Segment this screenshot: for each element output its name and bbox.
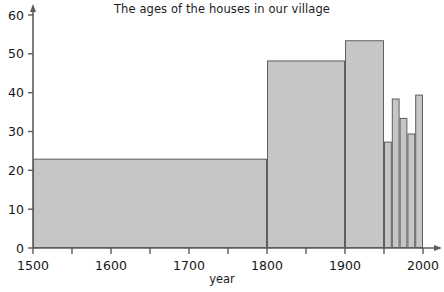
x-tick-label: 1600 [95,258,127,273]
y-tick-label: 0 [16,241,24,256]
y-tick-label: 30 [8,124,24,139]
histogram-bar [400,118,407,247]
histogram-bar [34,159,267,247]
x-axis-arrow-icon [434,245,442,251]
histogram-bar [346,41,384,248]
histogram-bar [416,95,423,247]
x-tick-label: 1800 [251,258,283,273]
x-tick-label: 1700 [173,258,205,273]
y-tick-label: 10 [8,202,24,217]
histogram-bar [385,142,392,247]
x-tick-label: 2000 [407,258,439,273]
histogram-bar [268,61,345,248]
y-axis-arrow-icon [30,4,36,12]
plot-area: 0102030405060 150016001700180019002000 [0,0,444,292]
x-axis-title: year [0,272,444,286]
histogram-chart: The ages of the houses in our village 01… [0,0,444,292]
y-tick-label: 40 [8,85,24,100]
y-tick-label: 20 [8,163,24,178]
x-tick-label: 1500 [17,258,49,273]
y-tick-labels: 0102030405060 [8,8,24,256]
y-tick-label: 50 [8,46,24,61]
x-tick-labels: 150016001700180019002000 [17,258,439,273]
bars-group [34,41,423,248]
histogram-bar [392,99,399,248]
y-tick-label: 60 [8,8,24,23]
x-tick-label: 1900 [329,258,361,273]
histogram-bar [408,134,415,248]
